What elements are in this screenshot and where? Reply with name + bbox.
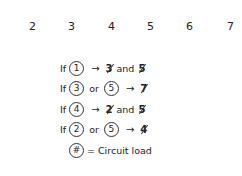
circled-input: 5 bbox=[104, 122, 119, 137]
number-label: 5 bbox=[147, 20, 154, 33]
header-numbers: 2 3 4 5 6 7 bbox=[0, 20, 242, 36]
circled-input: 3 bbox=[69, 81, 84, 96]
circled-input: 1 bbox=[69, 61, 84, 76]
circled-input: 4 bbox=[69, 102, 84, 117]
connector-word: or bbox=[89, 83, 99, 94]
struck-output: 5 bbox=[138, 63, 145, 74]
struck-output: 3 bbox=[106, 63, 113, 74]
rule-prefix: If bbox=[60, 83, 66, 94]
rule-prefix: If bbox=[60, 63, 66, 74]
arrow-icon: → bbox=[126, 83, 134, 94]
struck-output: 2 bbox=[106, 104, 113, 115]
number-label: 7 bbox=[227, 20, 234, 33]
number-label: 6 bbox=[186, 20, 193, 33]
legend-text: = Circuit load bbox=[87, 145, 152, 156]
connector-word: or bbox=[89, 124, 99, 135]
rule-4: If 2 or 5 → 4 bbox=[60, 121, 149, 137]
legend: # = Circuit load bbox=[66, 142, 152, 158]
struck-output: 7 bbox=[140, 83, 147, 94]
rule-prefix: If bbox=[60, 124, 66, 135]
arrow-icon: → bbox=[91, 104, 99, 115]
arrow-icon: → bbox=[126, 124, 134, 135]
number-label: 4 bbox=[108, 20, 115, 33]
join-word: and bbox=[117, 104, 135, 115]
struck-output: 5 bbox=[138, 104, 145, 115]
circled-input: 5 bbox=[104, 81, 119, 96]
rule-prefix: If bbox=[60, 104, 66, 115]
number-label: 3 bbox=[68, 20, 75, 33]
circled-input: 2 bbox=[69, 122, 84, 137]
rule-2: If 3 or 5 → 7 bbox=[60, 80, 149, 96]
arrow-icon: → bbox=[91, 63, 99, 74]
struck-output: 4 bbox=[140, 124, 147, 135]
rule-3: If 4 → 2 and 5 bbox=[60, 101, 147, 117]
join-word: and bbox=[117, 63, 135, 74]
number-label: 2 bbox=[29, 20, 36, 33]
circled-symbol: # bbox=[69, 143, 84, 158]
rule-1: If 1 → 3 and 5 bbox=[60, 60, 147, 76]
